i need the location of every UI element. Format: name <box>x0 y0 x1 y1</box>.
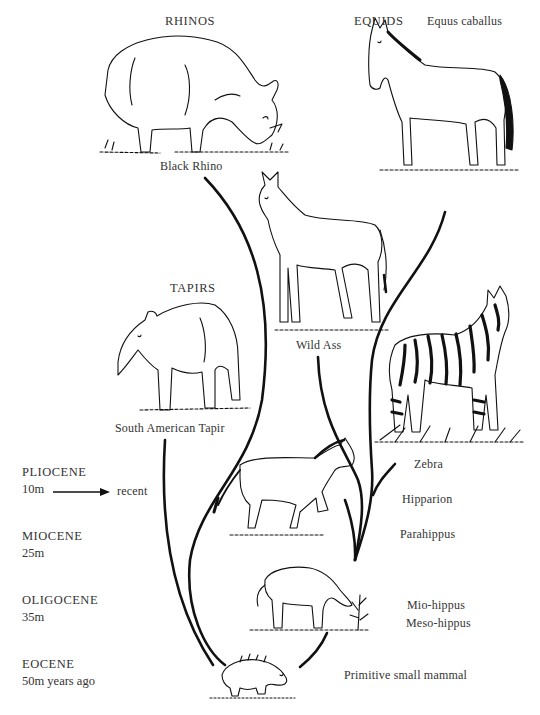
tapirs-group-title: TAPIRS <box>170 281 216 296</box>
epoch-age: 50m years ago <box>22 673 95 690</box>
equids-group-title: EQUIDS <box>354 14 403 29</box>
epoch-age: 35m <box>22 609 98 626</box>
primitive-link-line <box>300 633 327 667</box>
rhinos-group-title: RHINOS <box>165 14 215 29</box>
wild-ass-illustration <box>259 172 390 330</box>
tapir-branch-line <box>164 440 213 665</box>
timeline-oligocene: OLIGOCENE 35m <box>22 592 98 626</box>
primitive-mammal-label: Primitive small mammal <box>344 668 467 683</box>
hipparion-illustration <box>214 438 354 535</box>
parahippus-label: Parahippus <box>400 527 455 542</box>
timeline-pliocene: PLIOCENE 10m <box>22 464 86 498</box>
black-rhino-label: Black Rhino <box>160 159 223 174</box>
timeline-eocene: EOCENE 50m years ago <box>22 656 95 690</box>
epoch-name: MIOCENE <box>22 528 82 545</box>
hipparion-twig-line <box>345 500 355 560</box>
epoch-name: OLIGOCENE <box>22 592 98 609</box>
shrub-icon <box>350 595 368 630</box>
meso-hippus-label: Meso-hippus <box>406 616 471 631</box>
epoch-age: 10m <box>22 481 86 498</box>
tapir-species-label: South American Tapir <box>115 421 225 436</box>
epoch-name: PLIOCENE <box>22 464 86 481</box>
zebra-label: Zebra <box>414 457 443 472</box>
wild-ass-branch-line <box>318 357 362 560</box>
zebra-illustration <box>375 286 525 442</box>
parahippus-illustration <box>250 567 370 630</box>
timeline-miocene: MIOCENE 25m <box>22 528 82 562</box>
tapir-illustration <box>118 303 250 410</box>
wild-ass-label: Wild Ass <box>296 338 341 353</box>
primitive-mammal-illustration <box>210 654 295 698</box>
horse-illustration <box>369 18 520 170</box>
zebra-twig-line <box>373 464 395 495</box>
mio-hippus-label: Mio-hippus <box>407 598 465 613</box>
equus-caballus-label: Equus caballus <box>427 14 502 29</box>
recent-label: recent <box>117 484 148 499</box>
hipparion-label: Hipparion <box>402 492 452 507</box>
epoch-name: EOCENE <box>22 656 95 673</box>
epoch-age: 25m <box>22 545 82 562</box>
black-rhino-illustration <box>100 36 290 153</box>
